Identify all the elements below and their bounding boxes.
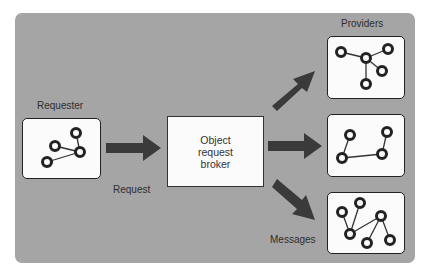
- messages-label: Messages: [270, 234, 316, 246]
- broker-label-line-2: request: [198, 146, 233, 158]
- provider-box-1: [327, 36, 405, 99]
- providers-label: Providers: [341, 18, 383, 30]
- broker-label-line-1: Object: [200, 134, 230, 146]
- provider-box-3: [327, 192, 405, 254]
- object-request-broker-box: Object request broker: [167, 116, 264, 187]
- request-label: Request: [113, 184, 150, 196]
- broker-label-line-3: broker: [201, 158, 231, 170]
- requester-box: [22, 118, 101, 179]
- requester-label: Requester: [37, 100, 83, 112]
- provider-box-2: [327, 114, 405, 177]
